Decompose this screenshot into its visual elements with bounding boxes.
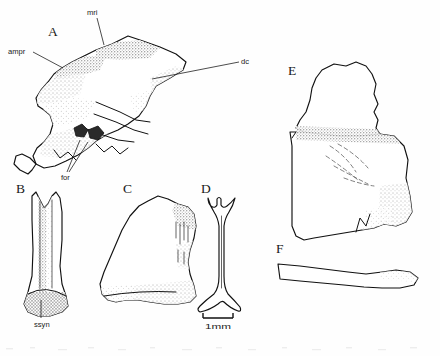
label-mri: mri	[87, 8, 98, 17]
figure-plate: A B C D E F mri ampr dc for ssyn 1mm	[0, 0, 440, 356]
panel-letter-c: C	[123, 181, 132, 196]
leader-mri	[97, 18, 104, 45]
label-ssyn: ssyn	[34, 320, 50, 329]
scale-bar: 1mm	[203, 313, 233, 331]
panel-a-drawing	[14, 36, 186, 174]
panel-letter-b: B	[16, 181, 25, 196]
panel-d-drawing	[198, 198, 241, 313]
panel-letter-f: F	[276, 241, 284, 256]
label-ampr: ampr	[8, 47, 26, 56]
leader-ampr	[33, 52, 63, 68]
scan-artifacts	[6, 347, 417, 350]
scale-bar-rule	[203, 313, 233, 318]
panel-a-anterior-process	[14, 154, 36, 174]
panel-e-drawing	[290, 62, 412, 240]
panel-a-ventral-tubercles	[96, 144, 128, 154]
panel-b-drawing	[24, 192, 68, 316]
panel-f-shading	[380, 270, 418, 282]
panel-f-drawing	[278, 264, 418, 288]
panel-letter-e: E	[288, 63, 296, 78]
panel-e-crest-outline	[296, 62, 380, 136]
panel-c-drawing	[100, 196, 196, 304]
label-dc: dc	[241, 57, 249, 66]
illustration-canvas: A B C D E F mri ampr dc for ssyn 1mm	[0, 0, 440, 356]
label-for: for	[61, 173, 70, 182]
panel-letter-a: A	[48, 24, 58, 39]
panel-letter-d: D	[201, 181, 211, 196]
panel-d-outline	[198, 198, 241, 313]
scale-bar-label: 1mm	[205, 322, 231, 331]
